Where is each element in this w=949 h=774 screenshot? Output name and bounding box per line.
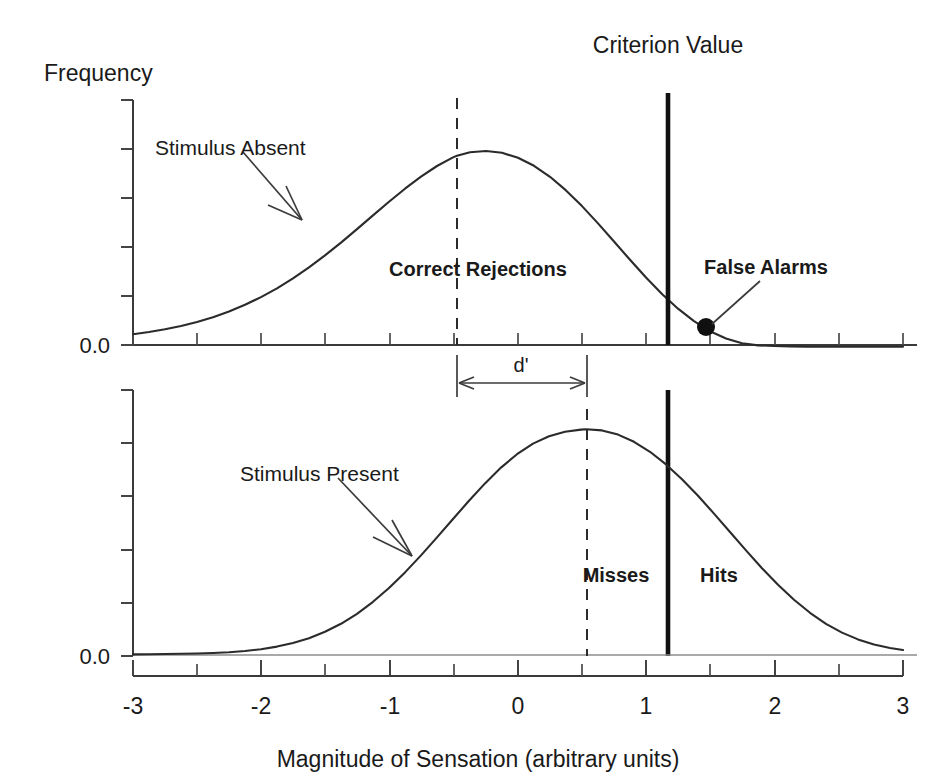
stimulus-absent-leader [243,152,302,220]
dprime-label: d' [514,354,529,376]
bottom-y-zero-label: 0.0 [79,644,110,669]
misses-label: Misses [583,564,650,586]
curve-stimulus-absent [133,151,903,347]
x-axis-scale [133,660,903,676]
signal-detection-figure: Frequency Criterion Value Stimulus Absen… [0,0,949,774]
x-tick-label-5: 2 [769,693,782,719]
correct-rejections-label: Correct Rejections [389,258,567,280]
plot-canvas: Frequency Criterion Value Stimulus Absen… [0,0,949,774]
false-alarms-label: False Alarms [704,256,828,278]
x-tick-label-6: 3 [897,693,910,719]
x-tick-label-1: -2 [251,693,271,719]
top-x-ticks [133,333,903,345]
top-y-zero-label: 0.0 [79,333,110,358]
x-tick-label-2: -1 [380,693,400,719]
x-tick-label-0: -3 [123,693,143,719]
false-alarms-marker-dot [697,318,715,336]
y-axis-title: Frequency [44,60,153,86]
x-tick-label-3: 0 [512,693,525,719]
x-tick-label-4: 1 [640,693,653,719]
stimulus-present-leader [338,478,412,556]
bottom-panel [121,390,917,656]
stimulus-present-label: Stimulus Present [240,462,399,485]
x-axis-title: Magnitude of Sensation (arbitrary units) [277,746,680,772]
stimulus-absent-label: Stimulus Absent [155,136,306,159]
criterion-value-label: Criterion Value [593,32,743,58]
hits-label: Hits [700,564,738,586]
false-alarms-leader [712,281,760,324]
